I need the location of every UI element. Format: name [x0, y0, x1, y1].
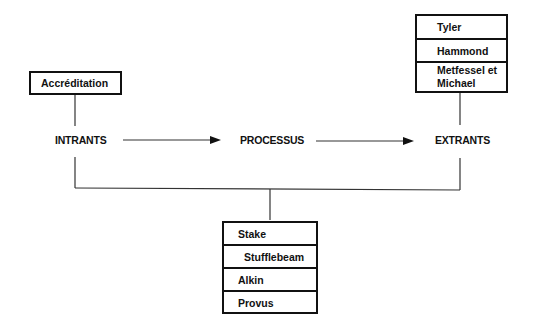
bottom-item: Provus: [224, 292, 316, 314]
outputs-item: Tyler: [417, 16, 506, 40]
bottom-item: Alkin: [224, 269, 316, 292]
stage-intrants: INTRANTS: [55, 134, 106, 146]
outputs-item: Hammond: [417, 40, 506, 63]
stage-processus: PROCESSUS: [240, 134, 304, 146]
bottom-item: Stufflebeam: [224, 246, 316, 269]
stage-extrants: EXTRANTS: [435, 134, 490, 146]
inputs-item: Accréditation: [31, 73, 120, 93]
outputs-box: Tyler Hammond Metfessel et Michael: [415, 14, 508, 93]
outputs-item: Metfessel et Michael: [417, 63, 506, 91]
bottom-box: Stake Stufflebeam Alkin Provus: [222, 221, 318, 314]
inputs-box: Accréditation: [29, 71, 122, 95]
bottom-item: Stake: [224, 223, 316, 246]
